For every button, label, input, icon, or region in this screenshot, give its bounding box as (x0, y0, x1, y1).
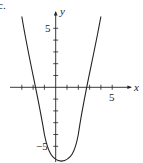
x-tick-label-5: 5 (109, 91, 115, 103)
parabola-curve (22, 17, 101, 162)
figure-label: c. (0, 0, 6, 11)
x-axis-label: x (133, 81, 139, 93)
y-tick-label-5: 5 (45, 22, 51, 34)
parabola-chart: c. 5 −5 5 x y (0, 0, 143, 163)
y-axis-label: y (59, 5, 65, 17)
